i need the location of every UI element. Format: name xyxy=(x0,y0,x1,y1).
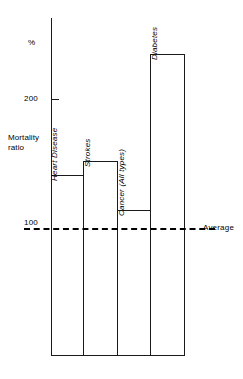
y-axis-title: Mortality ratio xyxy=(8,133,52,153)
bar-cancer-all-types xyxy=(117,210,151,356)
y-axis-tick-label-100: 100 xyxy=(24,218,38,227)
average-reference-label: Average xyxy=(203,223,234,232)
bar-label-heart-disease: Heart Disease xyxy=(50,128,59,181)
y-axis-tick-200 xyxy=(52,99,59,100)
mortality-ratio-bar-chart: % 200 100 Mortality ratio Heart Disease … xyxy=(0,0,243,379)
y-axis-title-line1: Mortality xyxy=(8,133,39,142)
bar-heart-disease xyxy=(51,175,84,356)
bar-label-cancer-all-types: Cancer (All types) xyxy=(117,149,126,216)
y-axis-title-line2: ratio xyxy=(8,143,24,152)
bar-label-diabetes: Diabetes xyxy=(150,27,159,60)
y-axis-tick-label-200: 200 xyxy=(24,94,38,103)
bar-label-strokes: Strokes xyxy=(83,138,92,167)
bar-strokes xyxy=(83,161,118,356)
bar-diabetes xyxy=(150,54,185,356)
y-axis-unit-label: % xyxy=(28,38,35,47)
chart-baseline xyxy=(51,355,185,356)
average-reference-line xyxy=(24,228,215,230)
